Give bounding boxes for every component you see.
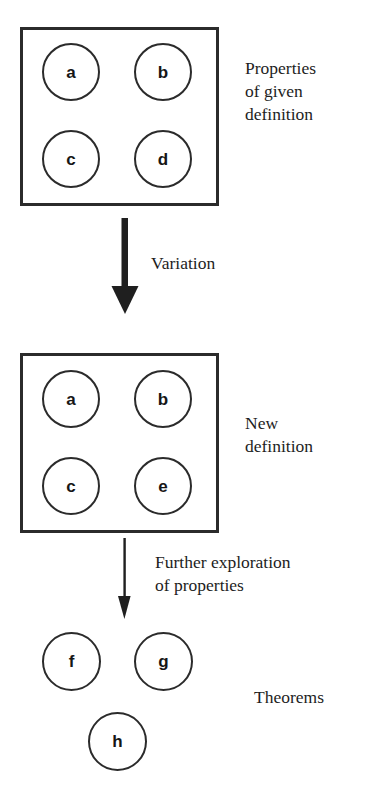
new-property-circle-a-label: a [66, 390, 75, 407]
property-circle-a-label: a [66, 63, 75, 80]
property-circle-d-label: d [158, 150, 168, 167]
theorem-circle-f-label: f [69, 653, 75, 670]
further-exploration-arrow-icon [100, 538, 150, 620]
new-definition-caption: New definition [245, 412, 369, 458]
new-property-circle-c: c [42, 457, 100, 515]
new-property-circle-b: b [134, 370, 192, 428]
theorems-caption: Theorems [254, 686, 369, 709]
property-circle-b-label: b [158, 63, 168, 80]
theorem-circle-h: h [88, 712, 147, 771]
theorem-circle-g: g [134, 632, 193, 691]
new-property-circle-e: e [134, 457, 192, 515]
theorem-circle-f: f [42, 632, 101, 691]
property-circle-c-label: c [66, 150, 75, 167]
diagram-canvas: a b c d Properties of given definition V… [0, 0, 369, 793]
theorem-circle-g-label: g [158, 653, 168, 670]
property-circle-b: b [134, 43, 192, 101]
property-circle-c: c [42, 130, 100, 188]
further-exploration-arrow-label: Further exploration of properties [155, 551, 369, 597]
theorem-circle-h-label: h [112, 733, 122, 750]
new-property-circle-c-label: c [66, 477, 75, 494]
given-definition-caption: Properties of given definition [245, 57, 369, 126]
new-property-circle-b-label: b [158, 390, 168, 407]
property-circle-a: a [42, 43, 100, 101]
new-property-circle-e-label: e [158, 477, 167, 494]
variation-arrow-icon [100, 218, 150, 315]
property-circle-d: d [134, 130, 192, 188]
variation-arrow-label: Variation [151, 252, 291, 275]
new-property-circle-a: a [42, 370, 100, 428]
